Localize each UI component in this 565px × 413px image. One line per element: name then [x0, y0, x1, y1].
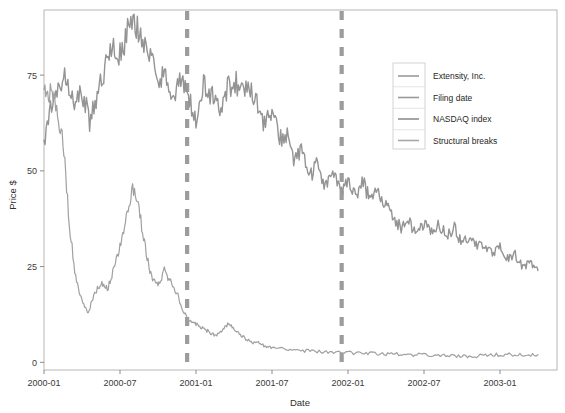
y-tick-label: 0	[32, 358, 37, 368]
legend-label: Filing date	[433, 93, 472, 103]
x-tick-label: 2000-07	[103, 378, 136, 388]
x-tick-label: 2001-01	[179, 378, 212, 388]
y-tick-label: 50	[27, 166, 37, 176]
y-axis-title: Price $	[7, 180, 18, 210]
y-tick-label: 75	[27, 71, 37, 81]
price-chart: 0255075 2000-012000-072001-012001-072002…	[0, 0, 565, 413]
legend-label: Extensity, Inc.	[433, 71, 485, 81]
x-axis-title: Date	[290, 397, 310, 408]
chart-canvas: 0255075 2000-012000-072001-012001-072002…	[0, 0, 565, 413]
x-tick-label: 2001-07	[255, 378, 288, 388]
x-tick-label: 2002-01	[331, 378, 364, 388]
y-tick-label: 25	[27, 262, 37, 272]
x-tick-label: 2000-01	[27, 378, 60, 388]
legend-label: NASDAQ index	[433, 114, 492, 124]
chart-background	[0, 0, 565, 413]
legend-label: Structural breaks	[433, 136, 497, 146]
x-tick-label: 2003-01	[483, 378, 516, 388]
x-tick-label: 2002-07	[407, 378, 440, 388]
